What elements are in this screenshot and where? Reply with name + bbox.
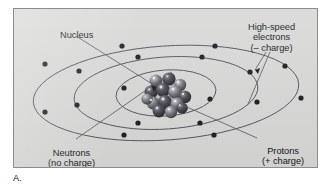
electron: [135, 120, 140, 125]
electron: [121, 85, 126, 90]
electron: [119, 43, 124, 48]
label-neutrons: Neutrons (no charge): [48, 148, 95, 168]
label-electrons-line3: (– charge): [248, 43, 295, 53]
electron: [121, 132, 126, 137]
nucleus: [141, 72, 191, 118]
electron: [298, 95, 303, 100]
label-high-speed-electrons: High-speed electrons (– charge): [248, 22, 295, 53]
electron: [207, 96, 212, 101]
label-neutrons-line2: (no charge): [48, 158, 95, 168]
proton-sphere: [156, 83, 170, 97]
label-nucleus: Nucleus: [60, 30, 93, 40]
label-protons-line1: Protons: [262, 146, 304, 156]
label-electrons-line1: High-speed: [248, 22, 295, 32]
proton-sphere: [176, 102, 188, 114]
electron: [76, 68, 81, 73]
label-protons: Protons (+ charge): [262, 146, 304, 167]
electron: [212, 43, 217, 48]
label-neutrons-line1: Neutrons: [48, 148, 95, 158]
illustration-panel: Nucleus High-speed electrons (– charge) …: [13, 8, 318, 168]
electron: [42, 61, 47, 66]
leader-line-electrons-a: [255, 52, 266, 70]
electron: [135, 54, 140, 59]
leader-line-nucleus: [76, 36, 157, 87]
figure-root: Nucleus High-speed electrons (– charge) …: [0, 0, 329, 192]
electron: [42, 109, 47, 114]
label-electrons-line2: electrons: [248, 32, 295, 42]
electron: [282, 63, 287, 68]
electron: [74, 102, 79, 107]
label-nucleus-text: Nucleus: [60, 30, 93, 40]
electron: [211, 132, 216, 137]
proton-sphere: [153, 105, 166, 118]
figure-caption: A.: [13, 173, 22, 184]
electron: [254, 99, 259, 104]
electron: [197, 120, 202, 125]
leader-line-electrons-b: [248, 52, 270, 104]
neutron-sphere: [165, 106, 177, 118]
label-protons-line2: (+ charge): [262, 156, 304, 166]
electron: [199, 54, 204, 59]
electron: [247, 69, 252, 74]
